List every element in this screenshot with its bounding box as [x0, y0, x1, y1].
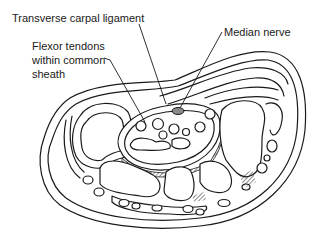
label-flexor-tendons-line3: sheath [32, 68, 65, 81]
label-flexor-tendons-line1: Flexor tendons [32, 40, 105, 53]
nerve-leader [180, 32, 222, 108]
carpal-bone-lower-mid [164, 167, 194, 201]
median-nerve [172, 108, 184, 115]
label-median-nerve: Median nerve [224, 26, 291, 39]
carpal-bone-lower-right [200, 161, 231, 192]
label-flexor-tendons-line2: within common [32, 54, 105, 67]
ligament-leader [139, 24, 166, 104]
carpal-tunnel-diagram: Transverse carpal ligament Median nerve … [0, 0, 318, 244]
label-transverse-carpal-ligament: Transverse carpal ligament [12, 12, 144, 25]
